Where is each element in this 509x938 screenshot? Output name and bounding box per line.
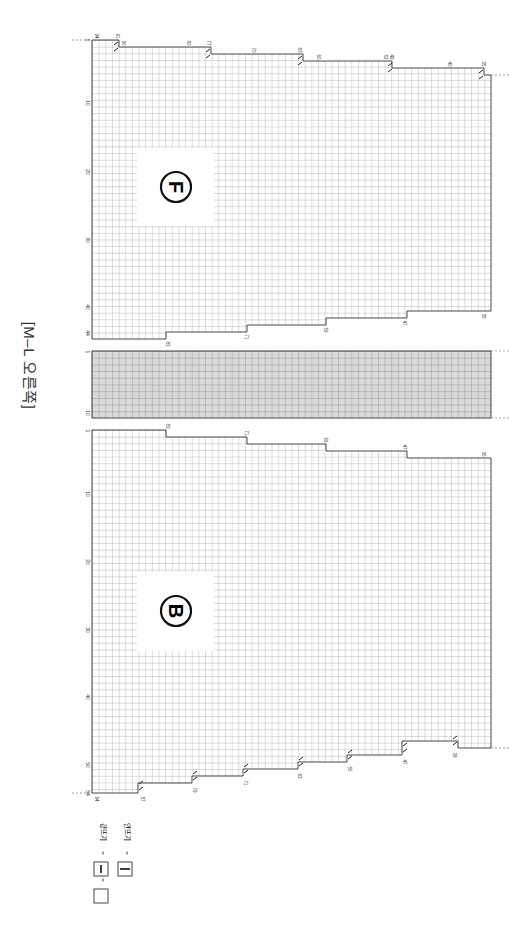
back-top-label: 83 <box>165 423 170 429</box>
back-bottom-label: 94 <box>94 796 99 802</box>
back-tick-54: 54 <box>85 790 91 796</box>
front-top-label: 94 <box>94 33 99 39</box>
back-motif-label: B <box>165 604 187 618</box>
band-section <box>92 351 509 418</box>
legend: = = 겉뜨기 = 안뜨기 <box>94 823 132 903</box>
front-top-label: 35 <box>481 61 486 67</box>
legend-equals: = <box>124 851 130 855</box>
front-tick-30: 30 <box>85 237 91 243</box>
front-bottom-label: 83 <box>165 341 170 347</box>
front-tick-40: 40 <box>85 304 91 310</box>
band-tick-10: 10 <box>85 410 91 416</box>
front-tick-10: 10 <box>85 100 91 106</box>
front-motif-label: F <box>165 181 187 193</box>
back-bottom-label: 47 <box>402 759 407 765</box>
front-bottom-label: 71 <box>244 334 249 340</box>
back-tick-30: 30 <box>85 627 91 633</box>
back-bottom-label: 55 <box>347 766 352 772</box>
back-bottom-label: 63 <box>297 773 302 779</box>
front-tick-44: 44 <box>85 330 91 336</box>
front-section: F <box>72 40 509 339</box>
front-top-label: 70 <box>251 47 256 53</box>
back-top-label: 47 <box>402 444 407 450</box>
front-tick-20: 20 <box>85 169 91 175</box>
back-top-label: 59 <box>323 437 328 443</box>
back-bottom-label: 39 <box>452 752 457 758</box>
legend-label-knit: 겉뜨기 <box>99 823 108 841</box>
front-top-label: 90 <box>121 40 126 46</box>
band-tick-1: 1 <box>85 351 91 354</box>
legend-equals: = <box>100 851 106 855</box>
back-bottom-label: 71 <box>243 780 248 786</box>
back-top-label: 71 <box>244 430 249 436</box>
back-top-label: 35 <box>481 451 486 457</box>
front-top-label: 49 <box>389 54 394 60</box>
front-bottom-label: 59 <box>323 327 328 333</box>
legend-empty-square <box>94 889 108 903</box>
front-top-label: 91 <box>115 33 120 39</box>
knitting-chart: F B <box>0 0 509 938</box>
back-bottom-label: 79 <box>192 787 197 793</box>
front-tick-1: 1 <box>85 39 91 42</box>
front-top-label: 52 <box>383 54 388 60</box>
back-tick-10: 10 <box>85 491 91 497</box>
legend-label-purl: 안뜨기 <box>123 823 132 841</box>
legend-equals: = <box>100 878 106 882</box>
back-section: B <box>72 430 509 793</box>
front-top-label: 80 <box>186 40 191 46</box>
back-tick-50: 50 <box>85 762 91 768</box>
front-bottom-label: 35 <box>481 313 486 319</box>
front-top-label: 63 <box>297 47 302 53</box>
front-top-label: 77 <box>206 40 211 46</box>
front-bottom-label: 47 <box>402 320 407 326</box>
front-top-label: 60 <box>316 54 321 60</box>
front-top-label: 40 <box>447 61 452 67</box>
back-tick-20: 20 <box>85 559 91 565</box>
back-tick-1: 1 <box>85 430 91 433</box>
back-bottom-label: 87 <box>140 796 145 802</box>
row-ticks: 1 10 20 30 40 44 1 10 1 10 20 30 40 50 5… <box>85 39 91 796</box>
back-tick-40: 40 <box>85 694 91 700</box>
